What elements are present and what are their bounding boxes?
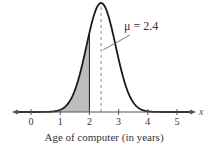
x-tick-label: 1 bbox=[58, 116, 63, 127]
plot-area bbox=[14, 3, 190, 112]
axis-left-arrow-icon bbox=[12, 110, 18, 115]
normal-curve bbox=[14, 3, 190, 112]
x-tick-label: 2 bbox=[87, 116, 92, 127]
x-tick-label: 3 bbox=[116, 116, 121, 127]
x-axis: x 012345 bbox=[12, 106, 204, 127]
x-tick-label: 0 bbox=[29, 116, 34, 127]
shaded-region-left-of-2 bbox=[14, 33, 89, 112]
x-axis-title: Age of computer (in years) bbox=[44, 131, 163, 144]
x-axis-variable: x bbox=[198, 106, 204, 117]
mean-annotation-label: μ = 2.4 bbox=[124, 19, 158, 33]
normal-distribution-chart: x 012345 Age of computer (in years) μ = … bbox=[0, 0, 214, 153]
x-tick-label: 5 bbox=[175, 116, 180, 127]
axis-right-arrow-icon bbox=[190, 110, 196, 115]
x-tick-label: 4 bbox=[145, 116, 150, 127]
